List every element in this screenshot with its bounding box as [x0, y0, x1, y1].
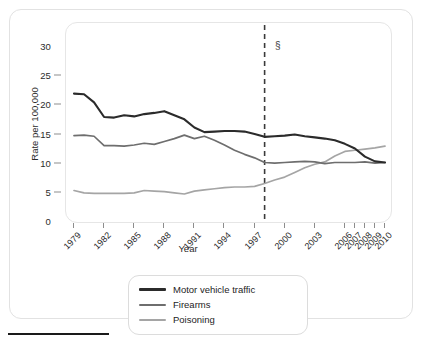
x-tick-mark — [354, 223, 355, 228]
y-tick-mark — [54, 104, 61, 105]
coding-change-marker-symbol: § — [275, 40, 281, 51]
legend-item-motor-vehicle-traffic: Motor vehicle traffic — [139, 282, 297, 297]
x-tick-mark — [374, 223, 375, 228]
x-tick-mark — [344, 223, 345, 228]
y-tick-label: 25 — [40, 70, 51, 81]
y-axis-title: Rate per 100,000 — [29, 64, 40, 184]
x-tick-mark — [384, 223, 385, 228]
legend-item-firearms: Firearms — [139, 297, 297, 312]
x-tick-mark — [133, 223, 134, 228]
y-tick-label: 30 — [40, 41, 51, 52]
x-tick-mark — [314, 223, 315, 228]
series-line-motor-vehicle-traffic — [74, 94, 385, 163]
x-axis-title: Year — [10, 243, 414, 254]
x-tick-mark — [103, 223, 104, 228]
y-tick-label: 5 — [46, 186, 51, 197]
legend-label-motor-vehicle-traffic: Motor vehicle traffic — [173, 284, 255, 295]
chart-legend: Motor vehicle traffic Firearms Poisoning — [128, 275, 308, 335]
chart-area: Rate per 100,000 051015202530 § 19791982… — [10, 10, 414, 238]
y-tick-label: 20 — [40, 99, 51, 110]
x-axis-title-text: Year — [178, 243, 197, 254]
y-tick-mark — [54, 162, 61, 163]
x-tick-mark — [254, 223, 255, 228]
legend-label-poisoning: Poisoning — [173, 314, 215, 325]
series-line-poisoning — [74, 146, 385, 194]
x-tick-mark — [284, 223, 285, 228]
y-tick-mark — [54, 191, 61, 192]
x-tick-mark — [73, 223, 74, 228]
plot-frame — [65, 22, 392, 223]
x-tick-mark — [163, 223, 164, 228]
legend-label-firearms: Firearms — [173, 299, 210, 310]
bottom-rule — [8, 333, 109, 335]
x-tick-mark — [193, 223, 194, 228]
y-tick-label: 15 — [40, 128, 51, 139]
legend-swatch-firearms — [139, 304, 166, 306]
y-tick-mark — [54, 133, 61, 134]
y-tick-mark — [54, 75, 61, 76]
x-tick-mark — [223, 223, 224, 228]
figure-card: Rate per 100,000 051015202530 § 19791982… — [9, 9, 413, 319]
legend-item-poisoning: Poisoning — [139, 312, 297, 327]
y-tick-label: 10 — [40, 157, 51, 168]
x-tick-mark — [364, 223, 365, 228]
series-line-firearms — [74, 135, 385, 164]
y-axis: Rate per 100,000 051015202530 — [10, 10, 65, 238]
legend-swatch-motor-vehicle-traffic — [139, 288, 166, 291]
series-layer — [66, 23, 392, 223]
legend-swatch-poisoning — [139, 319, 166, 321]
